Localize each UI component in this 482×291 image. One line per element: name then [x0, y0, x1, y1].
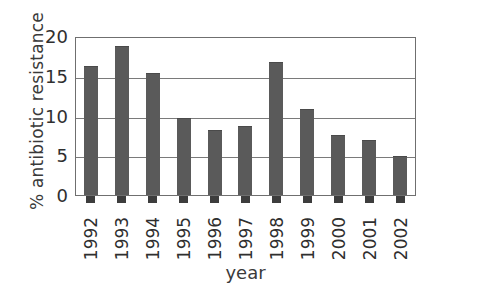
x-tick-mark: [241, 196, 250, 203]
x-tick-mark: [334, 196, 343, 203]
x-label-slot: 1993: [106, 203, 137, 258]
x-tick-slot: [137, 196, 168, 203]
y-tick-label-15: 15: [28, 68, 68, 86]
x-axis-ticks: [75, 196, 416, 203]
x-label-slot: 1997: [230, 203, 261, 258]
x-tick-slot: [292, 196, 323, 203]
bar-slot: [138, 38, 169, 195]
x-axis-tick-labels: 1992199319941995199619971998199920002001…: [75, 203, 416, 258]
bar: [208, 130, 222, 195]
bar: [238, 126, 252, 195]
x-tick-label-1997: 1997: [237, 212, 254, 266]
bar: [269, 62, 283, 195]
bar-chart-figure: % antibiotic resistance 0 5 10 15 20 199…: [0, 0, 482, 291]
x-tick-label-2001: 2001: [361, 212, 378, 266]
x-label-slot: 1996: [199, 203, 230, 258]
x-tick-slot: [261, 196, 292, 203]
x-label-slot: 1992: [75, 203, 106, 258]
x-tick-slot: [168, 196, 199, 203]
y-tick-label-5: 5: [28, 147, 68, 165]
x-tick-slot: [199, 196, 230, 203]
bar: [115, 46, 129, 195]
x-tick-label-1994: 1994: [144, 212, 161, 266]
x-tick-label-1995: 1995: [175, 212, 192, 266]
x-tick-label-2002: 2002: [392, 212, 409, 266]
x-tick-mark: [210, 196, 219, 203]
x-tick-mark: [179, 196, 188, 203]
x-tick-label-1998: 1998: [268, 212, 285, 266]
x-tick-slot: [385, 196, 416, 203]
x-tick-mark: [272, 196, 281, 203]
x-tick-mark: [365, 196, 374, 203]
x-tick-mark: [396, 196, 405, 203]
y-tick-label-0: 0: [28, 187, 68, 205]
x-tick-label-2000: 2000: [330, 212, 347, 266]
y-axis-tick-labels: 0 5 10 15 20: [28, 37, 68, 196]
bar-slot: [76, 38, 107, 195]
x-label-slot: 2000: [323, 203, 354, 258]
y-tick-label-10: 10: [28, 108, 68, 126]
x-tick-slot: [75, 196, 106, 203]
bar: [331, 135, 345, 195]
bar: [177, 118, 191, 195]
bars-layer: [76, 38, 415, 195]
x-label-slot: 1998: [261, 203, 292, 258]
bar-slot: [384, 38, 415, 195]
bar: [146, 73, 160, 195]
bar: [362, 140, 376, 195]
bar: [84, 66, 98, 195]
x-tick-mark: [148, 196, 157, 203]
y-tick-label-20: 20: [28, 28, 68, 46]
x-tick-slot: [106, 196, 137, 203]
bar-slot: [199, 38, 230, 195]
bar-slot: [261, 38, 292, 195]
x-tick-mark: [303, 196, 312, 203]
x-tick-label-1996: 1996: [206, 212, 223, 266]
bar-slot: [323, 38, 354, 195]
x-label-slot: 1994: [137, 203, 168, 258]
x-tick-slot: [354, 196, 385, 203]
x-axis-title: year: [75, 262, 416, 283]
bar-slot: [292, 38, 323, 195]
x-label-slot: 1995: [168, 203, 199, 258]
bar-slot: [107, 38, 138, 195]
bar-slot: [168, 38, 199, 195]
x-tick-mark: [117, 196, 126, 203]
plot-area: [75, 37, 416, 196]
bar: [300, 109, 314, 195]
x-tick-mark: [86, 196, 95, 203]
x-tick-slot: [230, 196, 261, 203]
x-label-slot: 1999: [292, 203, 323, 258]
bar: [393, 156, 407, 195]
x-label-slot: 2002: [385, 203, 416, 258]
x-tick-label-1993: 1993: [113, 212, 130, 266]
x-tick-label-1999: 1999: [299, 212, 316, 266]
bar-slot: [230, 38, 261, 195]
x-tick-label-1992: 1992: [82, 212, 99, 266]
x-tick-slot: [323, 196, 354, 203]
x-label-slot: 2001: [354, 203, 385, 258]
bar-slot: [353, 38, 384, 195]
